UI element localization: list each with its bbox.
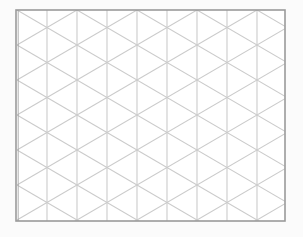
isometric-grid xyxy=(0,0,303,237)
grid-background xyxy=(16,10,285,221)
grid-diagonal-line xyxy=(17,220,285,237)
grid-diagonal-line xyxy=(17,0,285,10)
